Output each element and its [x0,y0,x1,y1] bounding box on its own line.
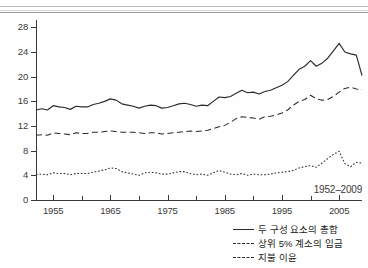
plot-area [36,20,362,200]
legend-item-label: 지불 이윤 [258,250,297,264]
y-axis-tick-label: 20 [2,71,28,82]
scan-artifact-line [0,10,368,11]
chart-legend: 두 구성 요소의 총합상위 5% 계소의 임금지불 이윤 [233,222,343,264]
legend-solid-line-icon [233,225,254,234]
series-line-dotted [36,151,362,175]
x-axis-tick-label: 1975 [151,205,185,216]
y-axis-tick [31,200,36,201]
legend-item: 상위 5% 계소의 임금 [233,236,343,250]
y-axis-tick-label: 24 [2,46,28,57]
y-axis-tick-label: 16 [2,95,28,106]
y-axis-tick-label: 12 [2,120,28,131]
range-annotation: 1952–2009 [314,184,362,195]
x-axis-tick-label: 1965 [93,205,127,216]
legend-dashed-line-icon [233,239,254,248]
x-axis-line [36,200,362,201]
y-axis-tick-label: 4 [2,169,28,180]
x-axis-tick-label: 2005 [322,205,356,216]
y-axis-tick-label: 28 [2,21,28,32]
scan-artifact-line [0,12,368,13]
scan-artifact-line [0,6,368,7]
series-line-dashed [36,87,362,135]
legend-dotted-line-icon [233,253,254,262]
legend-item: 지불 이윤 [233,250,343,264]
legend-item-label: 두 구성 요소의 총합 [258,222,338,236]
series-line-solid [36,43,362,110]
x-axis-tick-label: 1985 [208,205,242,216]
series-lines [36,20,362,200]
x-axis-tick-label: 1995 [265,205,299,216]
legend-item-label: 상위 5% 계소의 임금 [258,236,343,250]
x-axis-tick-label: 1955 [36,205,70,216]
chart-figure: 0481216202428 195519651975198519952005 1… [0,0,368,268]
y-axis-tick-label: 0 [2,194,28,205]
legend-item: 두 구성 요소의 총합 [233,222,343,236]
y-axis-tick-label: 8 [2,145,28,156]
